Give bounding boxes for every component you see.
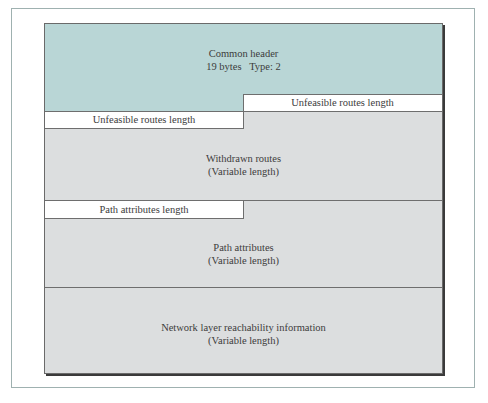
unfeasible-routes-length-field-right: Unfeasible routes length — [243, 94, 442, 111]
divider-path-attributes-bottom — [45, 287, 442, 288]
path-attributes-title: Path attributes — [45, 241, 442, 254]
withdrawn-routes-region-right-extension — [243, 111, 442, 128]
divider-path-length-bottom — [45, 218, 244, 219]
nlri-detail: (Variable length) — [45, 334, 442, 347]
path-attributes-region — [243, 200, 442, 218]
common-header-detail: 19 bytes Type: 2 — [45, 60, 442, 73]
path-attributes-length-field: Path attributes length — [45, 200, 243, 218]
path-attributes-detail: (Variable length) — [45, 254, 442, 267]
divider-header-left — [45, 111, 244, 112]
common-header-title: Common header — [45, 47, 442, 60]
nlri-title: Network layer reachability information — [45, 321, 442, 334]
unfeasible-routes-length-right-label: Unfeasible routes length — [243, 94, 442, 111]
bgp-update-message-diagram: Common header 19 bytes Type: 2 Unfeasibl… — [44, 23, 443, 374]
unfeasible-routes-length-left-label: Unfeasible routes length — [45, 111, 243, 128]
divider-header-right — [243, 94, 442, 95]
withdrawn-routes-detail: (Variable length) — [45, 165, 442, 178]
unfeasible-routes-length-field-left: Unfeasible routes length — [45, 111, 243, 128]
path-attributes-length-label: Path attributes length — [45, 200, 243, 218]
divider-path-length-right — [243, 200, 244, 219]
divider-unfeasible-right-bottom — [243, 111, 442, 112]
common-header-region-left-extension — [45, 94, 243, 111]
withdrawn-routes-title: Withdrawn routes — [45, 152, 442, 165]
divider-unfeasible-left-bottom — [45, 128, 244, 129]
